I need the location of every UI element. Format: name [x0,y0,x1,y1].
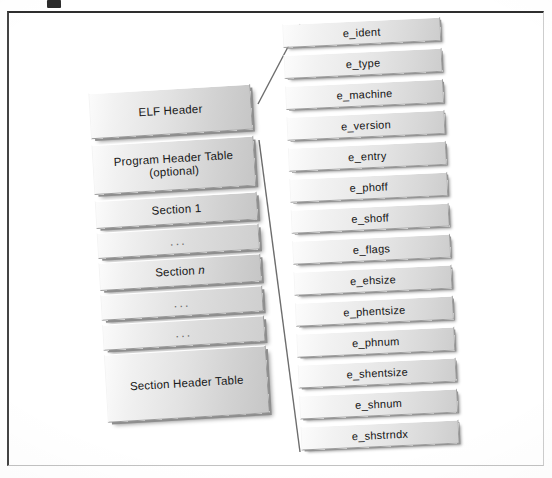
field-e-version[interactable]: e_version [286,110,445,141]
scan-artifact-mark [47,0,61,8]
ellipsis-label-1: ... [169,233,187,249]
block-section-1-label: Section 1 [151,202,201,218]
field-e-shnum[interactable]: e_shnum [299,388,458,419]
field-e-shstrndx[interactable]: e_shstrndx [301,419,460,450]
field-e-shentsize-label: e_shentsize [346,366,408,381]
block-program-header-table-label: Program Header Table (optional) [113,149,234,182]
field-e-shstrndx-label: e_shstrndx [352,428,409,443]
field-e-shentsize[interactable]: e_shentsize [298,357,457,388]
field-e-shoff[interactable]: e_shoff [291,203,450,234]
field-e-type[interactable]: e_type [284,48,443,79]
field-e-phentsize-label: e_phentsize [343,304,406,319]
field-e-ehsize-label: e_ehsize [350,273,397,287]
elf-file-layout-stack: ELF Header Program Header Table (optiona… [88,83,275,422]
elf-header-field-stack: e_idente_typee_machinee_versione_entrye_… [282,16,468,457]
field-e-entry-label: e_entry [348,149,387,163]
block-section-n-label: Section n [155,264,205,280]
field-e-ident-label: e_ident [343,26,381,40]
field-e-phnum[interactable]: e_phnum [296,327,455,358]
ellipsis-label-2: ... [173,295,191,311]
block-section-1[interactable]: Section 1 [95,191,258,229]
block-elf-header-label: ELF Header [138,103,203,120]
block-sections-ellipsis-upper: ... [97,223,260,259]
block-section-n[interactable]: Section n [98,253,261,291]
field-e-phnum-label: e_phnum [352,335,400,349]
field-e-phentsize[interactable]: e_phentsize [295,296,454,327]
block-section-header-table[interactable]: Section Header Table [104,345,270,422]
block-sections-ellipsis-lower: ... [102,315,265,351]
block-elf-header[interactable]: ELF Header [88,84,252,140]
field-e-shoff-label: e_shoff [351,211,389,225]
block-section-n-prefix: Section [155,264,199,279]
block-sections-ellipsis-middle: ... [100,285,263,321]
field-e-entry[interactable]: e_entry [288,141,447,172]
field-e-machine[interactable]: e_machine [285,79,444,110]
field-e-shnum-label: e_shnum [355,397,403,411]
block-program-header-table[interactable]: Program Header Table (optional) [91,136,256,196]
block-section-header-table-label: Section Header Table [130,374,244,394]
field-e-ehsize[interactable]: e_ehsize [293,265,452,296]
field-e-version-label: e_version [341,118,391,132]
field-e-flags[interactable]: e_flags [292,234,451,265]
block-section-n-index: n [198,264,205,276]
field-e-flags-label: e_flags [353,242,391,256]
field-e-phoff[interactable]: e_phoff [289,172,448,203]
field-e-machine-label: e_machine [336,87,393,102]
field-e-type-label: e_type [346,57,381,71]
ellipsis-label-3: ... [175,325,193,341]
field-e-phoff-label: e_phoff [349,180,388,194]
